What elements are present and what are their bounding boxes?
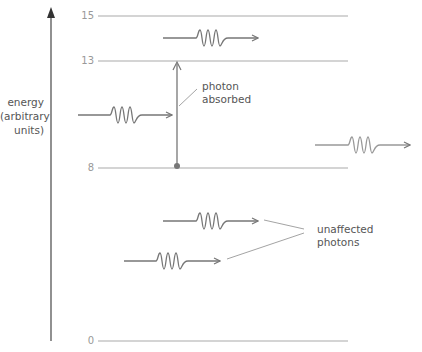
photon-absorbed-label: photon absorbed (202, 80, 251, 106)
absorbed-label-line-2: absorbed (202, 93, 251, 106)
axis-arrow-icon (47, 7, 55, 18)
unaffected-photons-label: unaffected photons (317, 223, 373, 249)
transition-origin-dot (174, 163, 180, 169)
energy-level-diagram (0, 0, 422, 352)
level-8-label: 8 (74, 163, 94, 173)
unaffected-label-line-2: photons (317, 236, 373, 249)
photon-top-icon (163, 30, 258, 46)
unaffected-label-line-1: unaffected (317, 223, 373, 236)
absorption-transition (173, 62, 181, 169)
level-15-label: 15 (74, 11, 94, 21)
energy-axis-label: energy (arbitrary units) (0, 95, 44, 137)
axis-label-line-1: energy (0, 95, 44, 109)
photon-unaffected-1-icon (163, 213, 258, 229)
photon-unaffected-2-icon (124, 253, 220, 269)
absorbed-label-line-1: photon (202, 80, 251, 93)
photon-absorbed-icon (78, 107, 172, 123)
unaffected-leader-line-2 (227, 233, 304, 259)
unaffected-leader-line-1 (264, 220, 304, 229)
absorbed-leader-line (179, 89, 197, 106)
level-0-label: 0 (74, 336, 94, 346)
energy-levels (98, 16, 348, 341)
energy-axis (47, 7, 55, 341)
axis-label-line-2: (arbitrary (0, 109, 44, 123)
level-13-label: 13 (74, 56, 94, 66)
axis-label-line-3: units) (0, 123, 44, 137)
photon-right-icon (315, 137, 410, 153)
